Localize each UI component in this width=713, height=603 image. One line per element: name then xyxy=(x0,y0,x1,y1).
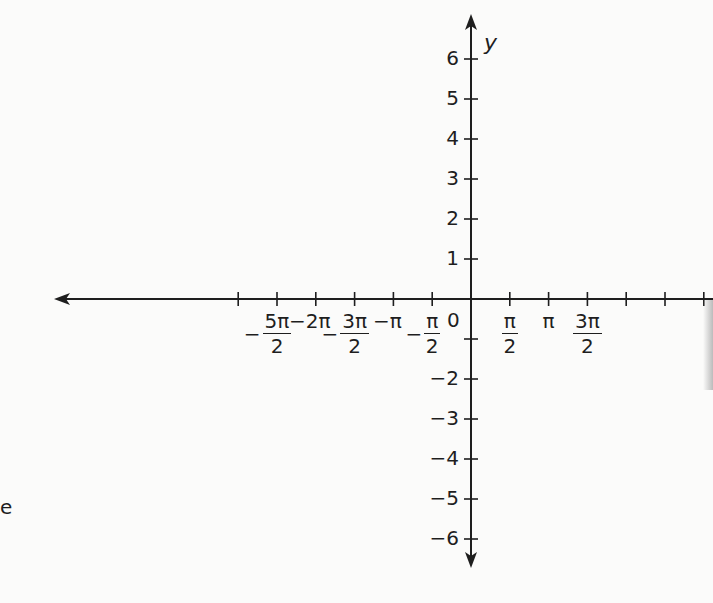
fraction: 3π2 xyxy=(573,311,602,356)
numerator: 3π xyxy=(573,311,602,334)
y-tick-label: 4 xyxy=(419,128,459,148)
origin-label: 0 xyxy=(447,310,460,330)
text-fragment: e xyxy=(0,495,12,519)
y-tick-label: −6 xyxy=(419,528,459,548)
y-tick-label: 2 xyxy=(419,208,459,228)
minus-sign: − xyxy=(405,322,422,346)
x-tick-fraction-label: −5π2 xyxy=(244,311,292,356)
y-tick-label: −2 xyxy=(419,368,459,388)
fraction: 3π2 xyxy=(340,311,369,356)
y-tick-label: 5 xyxy=(419,88,459,108)
y-tick-label: 6 xyxy=(419,48,459,68)
denominator: 2 xyxy=(348,334,361,356)
y-tick-label: −5 xyxy=(419,488,459,508)
x-tick-fraction-label: π2 xyxy=(502,311,518,356)
minus-sign: − xyxy=(321,322,338,346)
y-tick-label: −3 xyxy=(419,408,459,428)
denominator: 2 xyxy=(503,334,516,356)
x-tick-fraction-label: 3π2 xyxy=(573,311,602,356)
denominator: 2 xyxy=(426,334,439,356)
fraction: π2 xyxy=(502,311,518,356)
x-tick-fraction-label: −π2 xyxy=(405,311,440,356)
fraction: π2 xyxy=(424,311,440,356)
coordinate-plane xyxy=(0,0,713,603)
denominator: 2 xyxy=(271,334,284,356)
numerator: π xyxy=(502,311,518,334)
x-tick-fraction-label: −3π2 xyxy=(321,311,369,356)
denominator: 2 xyxy=(581,334,594,356)
numerator: 5π xyxy=(263,311,292,334)
numerator: π xyxy=(424,311,440,334)
numerator: 3π xyxy=(340,311,369,334)
fraction: 5π2 xyxy=(263,311,292,356)
y-tick-label: 1 xyxy=(419,248,459,268)
y-axis-name: y xyxy=(484,30,497,55)
y-tick-label: −4 xyxy=(419,448,459,468)
y-tick-label: 3 xyxy=(419,168,459,188)
minus-sign: − xyxy=(244,322,261,346)
x-tick-label: −π xyxy=(373,311,402,331)
page-edge-shadow xyxy=(703,300,713,390)
x-tick-label: π xyxy=(543,311,555,331)
